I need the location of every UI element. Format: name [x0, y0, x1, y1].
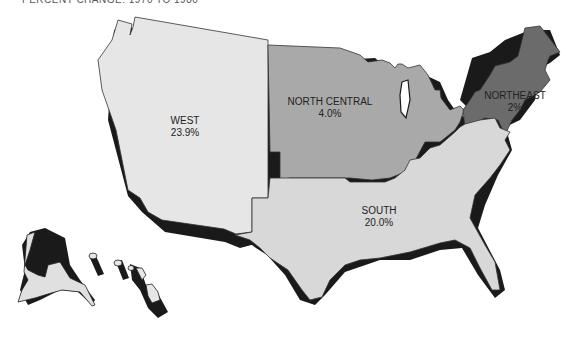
region-name: NORTHEAST — [484, 90, 546, 102]
us-region-map — [0, 0, 577, 337]
region-value: 20.0% — [362, 217, 397, 229]
region-name: SOUTH — [362, 205, 397, 217]
hawaii-island-oahu[interactable] — [114, 260, 122, 266]
region-value: 4.0% — [288, 108, 373, 120]
label-west: WEST 23.9% — [171, 115, 200, 139]
region-name: NORTH CENTRAL — [288, 96, 373, 108]
hawaii-island-molokai[interactable] — [128, 266, 134, 271]
hawaii-island-kauai[interactable] — [89, 253, 97, 259]
label-south: SOUTH 20.0% — [362, 205, 397, 229]
region-value: 23.9% — [171, 127, 200, 139]
label-north-central: NORTH CENTRAL 4.0% — [288, 96, 373, 120]
region-value: 2% — [484, 102, 546, 114]
region-name: WEST — [171, 115, 200, 127]
label-northeast: NORTHEAST 2% — [484, 90, 546, 114]
